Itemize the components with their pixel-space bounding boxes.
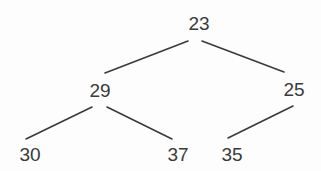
edge-29-37	[107, 107, 172, 139]
edge-29-30	[26, 107, 92, 139]
node-30: 30	[19, 145, 40, 164]
tree-edges	[0, 0, 321, 171]
edge-23-25	[202, 41, 284, 72]
node-29: 29	[89, 81, 110, 100]
tree-diagram: 23 29 25 30 37 35	[0, 0, 321, 171]
edge-25-35	[228, 106, 293, 138]
node-37: 37	[167, 145, 188, 164]
node-23-root: 23	[188, 14, 209, 33]
edge-23-29	[105, 41, 188, 73]
node-25: 25	[283, 80, 304, 99]
node-35: 35	[221, 145, 242, 164]
